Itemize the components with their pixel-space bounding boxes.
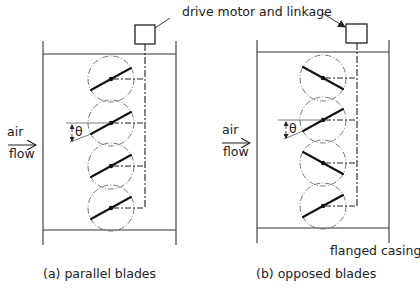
blade-row-4 (300, 183, 357, 229)
drive-callout-text: drive motor and linkage (182, 4, 332, 19)
drive-motor-box (135, 25, 155, 44)
motor-callout-leader (322, 13, 345, 27)
motor-callout-leader (155, 18, 170, 28)
panel-a-parallel-blades: θ air flow (a) parallel blades (7, 18, 176, 281)
air-label: air (222, 122, 239, 137)
air-label: air (7, 124, 24, 139)
theta-symbol: θ (75, 124, 83, 139)
caption-b: (b) opposed blades (256, 266, 376, 281)
blade-row-4 (88, 185, 145, 231)
caption-a: (a) parallel blades (43, 266, 156, 281)
blade-row-1 (88, 56, 145, 102)
blade-row-3 (88, 143, 145, 189)
damper-diagram: θ air flow (a) parallel blades drive mot… (0, 0, 420, 298)
flow-label: flow (9, 146, 35, 161)
blade-row-3 (300, 140, 357, 186)
flow-label: flow (223, 144, 249, 159)
drive-motor-box (346, 24, 367, 43)
panel-b-opposed-blades: θ air flow flanged casing (b) opposed bl… (222, 13, 420, 281)
blade-row-1 (300, 55, 357, 101)
casing-callout-text: flanged casing (330, 243, 420, 258)
theta-symbol: θ (289, 121, 297, 136)
